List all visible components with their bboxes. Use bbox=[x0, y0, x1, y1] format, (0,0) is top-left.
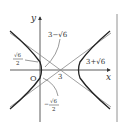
label-left-den: 2 bbox=[16, 60, 20, 66]
origin-label: O bbox=[30, 74, 37, 83]
label-left-num: √6 bbox=[14, 52, 22, 58]
y-axis-label: y bbox=[30, 13, 37, 23]
pointer-top bbox=[45, 39, 60, 67]
hyperbola-diagram: y x O 3 3−√6 3+√6 √6 2 − √6 2 bbox=[0, 0, 124, 129]
x-axis-label: x bbox=[106, 72, 111, 82]
label-3-plus-sqrt6: 3+√6 bbox=[86, 58, 106, 66]
label-bottom-num: √6 bbox=[50, 98, 58, 104]
label-3-minus-sqrt6: 3−√6 bbox=[48, 31, 68, 39]
center-label: 3 bbox=[58, 73, 62, 81]
label-bottom-sign: − bbox=[44, 100, 49, 107]
pointer-left bbox=[25, 60, 38, 62]
label-bottom-den: 2 bbox=[52, 106, 56, 112]
